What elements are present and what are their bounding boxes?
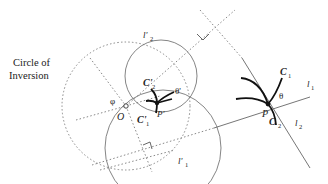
label-theta-prime: θ' <box>175 86 181 96</box>
label-l2-prime-sub: 2 <box>150 35 153 42</box>
dotted-line-upper-left <box>90 58 126 106</box>
label-c1: C <box>280 66 287 77</box>
label-circle-of-inversion-2: Inversion <box>9 70 49 81</box>
label-p: P <box>261 108 268 119</box>
label-theta: θ <box>279 91 283 101</box>
inversion-diagram: Circle of Inversion O φ l' 2 C' 2 θ' P' … <box>0 0 328 184</box>
point-p-prime <box>155 101 159 105</box>
label-l1-prime: l' <box>178 156 184 166</box>
line-l2-upper <box>242 58 310 168</box>
label-circle-of-inversion-1: Circle of <box>13 57 51 68</box>
right-angle-marker-bottom <box>143 142 152 149</box>
point-o <box>124 104 128 108</box>
label-p-prime: P' <box>156 109 165 119</box>
label-c2-prime-sub: 2 <box>152 83 155 90</box>
label-l1-prime-sub: 1 <box>185 161 188 168</box>
label-c1-prime-sub: 1 <box>146 120 149 127</box>
dotted-line-top-to-p <box>200 10 242 58</box>
label-l1-sub: 1 <box>311 84 314 91</box>
label-l2-sub: 2 <box>299 123 302 130</box>
label-o: O <box>117 111 124 122</box>
label-c1-sub: 1 <box>288 72 291 79</box>
label-l2-prime: l' <box>143 30 149 40</box>
label-c2-sub: 2 <box>278 122 281 129</box>
label-l1: l <box>307 79 310 89</box>
dotted-line-lower-arc <box>100 150 175 170</box>
label-phi: φ <box>110 96 115 106</box>
label-l2: l <box>295 118 298 128</box>
label-c2: C <box>269 116 276 127</box>
dotted-line-l1-extended <box>92 128 214 165</box>
point-p <box>266 102 271 107</box>
